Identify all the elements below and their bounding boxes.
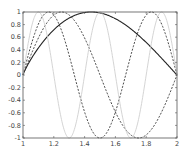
x-tick-label: 1.2 bbox=[49, 140, 59, 148]
y-tick-label: -1 bbox=[15, 134, 21, 142]
x-tick-label: 1.8 bbox=[141, 140, 151, 148]
y-tick-label: 0 bbox=[17, 71, 21, 79]
y-tick-label: 0.4 bbox=[11, 46, 21, 54]
x-tick-label: 1.4 bbox=[79, 140, 89, 148]
y-tick-label: 0.8 bbox=[11, 21, 21, 29]
chart: 11.21.41.61.82-1-0.8-0.6-0.4-0.200.20.40… bbox=[0, 0, 184, 155]
series-solid bbox=[23, 12, 177, 75]
y-tick-label: -0.8 bbox=[8, 122, 21, 130]
line-plot: 11.21.41.61.82-1-0.8-0.6-0.4-0.200.20.40… bbox=[0, 0, 184, 155]
y-tick-label: -0.2 bbox=[8, 84, 21, 92]
series-light bbox=[23, 12, 177, 138]
y-tick-label: 1 bbox=[17, 8, 21, 16]
x-tick-label: 1 bbox=[21, 140, 25, 148]
x-tick-label: 1.6 bbox=[110, 140, 120, 148]
y-tick-label: 0.6 bbox=[11, 33, 21, 41]
y-tick-label: -0.6 bbox=[8, 109, 21, 117]
x-tick-label: 2 bbox=[175, 140, 179, 148]
y-tick-label: 0.2 bbox=[11, 59, 21, 67]
y-tick-label: -0.4 bbox=[8, 96, 21, 104]
